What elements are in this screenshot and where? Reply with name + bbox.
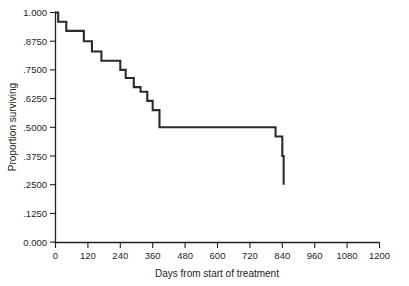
x-tick-label: 240 [112, 250, 128, 261]
survival-chart-svg: 1.000 .8750 .7500 .6250 .5000 .3750 .250… [0, 0, 409, 286]
survival-step-curve [56, 13, 284, 185]
x-tick-label: 720 [242, 250, 258, 261]
y-tick-label: 1.000 [23, 7, 47, 18]
y-tick-label: .6250 [23, 93, 47, 104]
x-axis-title: Days from start of treatment [155, 268, 279, 279]
x-tick-label: 600 [210, 250, 226, 261]
y-tick-label: .3750 [23, 151, 47, 162]
x-tick-label: 1200 [369, 250, 390, 261]
x-tick-label: 360 [145, 250, 161, 261]
y-tick-label: .2500 [23, 179, 47, 190]
x-tick-label: 960 [307, 250, 323, 261]
y-tick-label: 0.000 [23, 237, 47, 248]
kaplan-meier-figure: 1.000 .8750 .7500 .6250 .5000 .3750 .250… [0, 0, 409, 286]
y-tick-label: .1250 [23, 208, 47, 219]
y-axis-ticks: 1.000 .8750 .7500 .6250 .5000 .3750 .250… [23, 7, 55, 248]
x-tick-label: 0 [53, 250, 58, 261]
x-tick-label: 120 [80, 250, 96, 261]
y-tick-label: .8750 [23, 36, 47, 47]
y-tick-label: .7500 [23, 64, 47, 75]
x-tick-label: 480 [177, 250, 193, 261]
x-tick-label: 1080 [337, 250, 358, 261]
x-tick-label: 840 [274, 250, 290, 261]
y-axis-title: Proportion surviving [7, 83, 18, 171]
x-axis-ticks: 0 120 240 360 480 600 720 840 960 1080 1… [53, 243, 390, 262]
y-tick-label: .5000 [23, 122, 47, 133]
